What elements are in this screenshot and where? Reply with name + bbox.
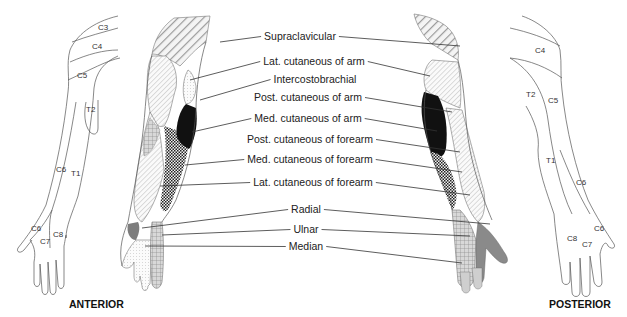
dermatome-c5: C5 xyxy=(77,71,88,80)
label-med-cutaneous-of-forearm: Med. cutaneous of forearm xyxy=(247,153,373,165)
leader-line-right xyxy=(368,62,430,77)
dermatome-c4: C4 xyxy=(535,46,546,55)
dermatome-c6: C6 xyxy=(576,178,587,187)
label-lat-cutaneous-of-arm: Lat. cutaneous of arm xyxy=(263,55,365,67)
leader-line-left xyxy=(185,160,244,166)
label-intercostobrachial: Intercostobrachial xyxy=(274,73,357,85)
posterior-view-caption: POSTERIOR xyxy=(549,298,611,310)
dermatome-c7: C7 xyxy=(582,240,593,249)
anterior-view-caption: ANTERIOR xyxy=(69,298,124,310)
dermatome-c7: C7 xyxy=(40,237,51,246)
posterior-nerve-arm xyxy=(414,14,507,293)
upper-limb-cutaneous-innervation-diagram: Supraclavicular Lat. cutaneous of arm In… xyxy=(0,0,627,317)
label-supraclavicular: Supraclavicular xyxy=(264,30,336,42)
leader-line-right xyxy=(326,247,462,264)
leader-line-right xyxy=(376,140,460,153)
label-med-cutaneous-of-arm: Med. cutaneous of arm xyxy=(254,112,362,124)
label-radial: Radial xyxy=(291,203,321,215)
posterior-dermatome-labels: C4 T2 C5 T1 C6 C6 C8 C7 xyxy=(526,46,605,249)
dermatome-t1: T1 xyxy=(71,169,81,178)
dermatome-c8: C8 xyxy=(567,234,578,243)
nerve-labels: Supraclavicular Lat. cutaneous of arm In… xyxy=(247,30,373,252)
dermatome-c8: C8 xyxy=(53,230,64,239)
dermatome-c6-hand: C6 xyxy=(594,224,605,233)
label-post-cutaneous-of-forearm: Post. cutaneous of forearm xyxy=(247,133,373,145)
dermatome-t2: T2 xyxy=(526,90,536,99)
leader-line-left xyxy=(162,230,290,236)
leader-line-left xyxy=(220,37,261,43)
leader-line-left xyxy=(145,246,286,247)
dermatome-c4: C4 xyxy=(92,42,103,51)
dermatome-c6: C6 xyxy=(56,165,67,174)
dermatome-t2: T2 xyxy=(86,105,96,114)
dermatome-t1: T1 xyxy=(546,156,556,165)
leader-line-left xyxy=(192,119,251,133)
dermatome-c6-hand: C6 xyxy=(31,224,42,233)
anterior-nerve-arm xyxy=(121,16,210,291)
leader-line-right xyxy=(376,160,462,173)
label-post-cutaneous-of-arm: Post. cutaneous of arm xyxy=(254,91,362,103)
dermatome-c5: C5 xyxy=(548,96,559,105)
label-lat-cutaneous-of-forearm: Lat. cutaneous of forearm xyxy=(253,176,373,188)
dermatome-c3: C3 xyxy=(98,23,109,32)
anterior-dermatome-labels: C3 C4 C5 T2 C6 T1 C6 C8 C7 xyxy=(31,23,109,246)
posterior-dermatome-map xyxy=(510,16,615,297)
anterior-dermatome-map xyxy=(17,16,120,295)
label-median: Median xyxy=(289,240,324,252)
label-ulnar: Ulnar xyxy=(293,223,319,235)
leader-line-right xyxy=(322,230,470,237)
